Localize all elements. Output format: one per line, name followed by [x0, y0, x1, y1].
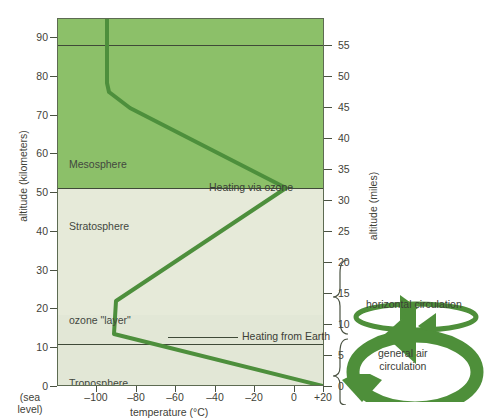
annotation-heating-from-earth: Heating from Earth: [242, 330, 330, 342]
left-tick-30: 30: [36, 264, 57, 276]
right-tick-55: 55: [338, 39, 350, 51]
sea-level-note-line1: (sea: [8, 391, 52, 403]
right-tick-45: 45: [338, 101, 350, 113]
label-general-air-circulation-line1: general air: [378, 347, 428, 360]
right-axis-title: altitude (miles): [367, 141, 379, 271]
bottom-tick--80: –80: [116, 391, 156, 403]
left-tick-20: 20: [36, 302, 57, 314]
label-troposphere: Troposphere: [69, 377, 128, 386]
left-tick-10: 10: [36, 341, 57, 353]
label-general-air-circulation: general air circulation: [378, 347, 428, 373]
leader-line-ozone: [135, 188, 205, 189]
figure-atmosphere-temperature-profile: Mesosphere Stratosphere ozone "layer" Tr…: [0, 0, 491, 420]
left-tick-60: 60: [36, 147, 57, 159]
left-axis: altitude (kilometers) 0 10 20 30 40 50 6…: [0, 0, 57, 420]
label-mesosphere: Mesosphere: [69, 158, 127, 170]
left-tick-50: 50: [36, 186, 57, 198]
bottom-axis-title: temperature (°C): [130, 406, 208, 418]
left-tick-40: 40: [36, 225, 57, 237]
label-stratosphere: Stratosphere: [69, 220, 129, 232]
annotation-heating-from-earth-group: Heating from Earth: [168, 330, 330, 342]
right-tick-50: 50: [338, 70, 350, 82]
label-ozone-layer: ozone "layer": [69, 314, 131, 326]
circulation-arrows: [340, 262, 491, 402]
bottom-tick--60: –60: [155, 391, 195, 403]
bottom-tick--20: –20: [234, 391, 274, 403]
annotation-heating-via-ozone-group: Heating via ozone: [135, 181, 293, 193]
sea-level-note-line2: level): [8, 403, 52, 415]
left-tick-70: 70: [36, 109, 57, 121]
annotation-heating-via-ozone: Heating via ozone: [209, 181, 293, 193]
leader-line-earth: [168, 337, 238, 338]
sea-level-note: (sea level): [8, 391, 52, 415]
right-tick-40: 40: [338, 132, 350, 144]
right-tick-25: 25: [338, 225, 350, 237]
left-tick-80: 80: [36, 70, 57, 82]
left-tick-90: 90: [36, 31, 57, 43]
label-horizontal-circulation: horizontal circulation: [366, 298, 462, 311]
label-general-air-circulation-line2: circulation: [378, 360, 428, 373]
right-tick-35: 35: [338, 163, 350, 175]
bottom-tick--100: –100: [76, 391, 116, 403]
bottom-tick--40: –40: [195, 391, 235, 403]
right-tick-30: 30: [338, 194, 350, 206]
